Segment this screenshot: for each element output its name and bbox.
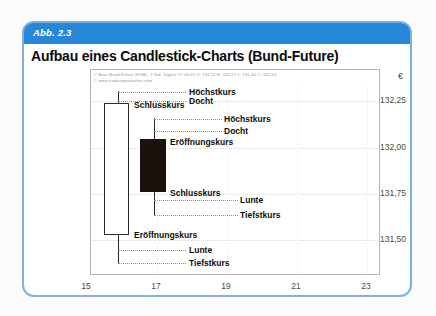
x-tick-23: 23 <box>361 281 370 291</box>
black-candle-upper-wick <box>154 118 155 139</box>
leader-white-high <box>118 92 186 93</box>
v-gridline-19 <box>227 84 228 273</box>
label-black-high: Höchstkurs <box>224 114 271 124</box>
y-tick-131-75: 131,75 <box>380 188 406 198</box>
label-black-upper-wick: Docht <box>224 126 248 136</box>
white-candle-body <box>104 103 129 235</box>
label-black-open: Eröffnungskurs <box>170 137 233 147</box>
label-black-lower-wick: Lunte <box>240 195 263 205</box>
leader-black-lower-wick <box>154 200 238 201</box>
leader-black-upper-wick <box>154 131 222 132</box>
black-candle-lower-wick <box>154 192 155 216</box>
x-tick-19: 19 <box>221 281 230 291</box>
y-tick-132-00: 132,00 <box>380 142 406 152</box>
label-white-open: Eröffnungskurs <box>134 230 197 240</box>
x-tick-15: 15 <box>81 281 90 291</box>
leader-white-low <box>118 263 186 264</box>
label-white-lower-wick: Lunte <box>189 245 212 255</box>
label-white-low: Tiefstkurs <box>189 258 229 268</box>
label-black-close: Schlusskurs <box>170 188 221 198</box>
h-gridline-131-75 <box>92 194 378 195</box>
label-white-upper-wick: Docht <box>189 96 213 106</box>
v-gridline-23 <box>367 84 368 273</box>
chart-plot-area: © Euro-Bund-Future (FGBL, 1 Std. Tages) … <box>90 69 380 275</box>
label-white-close: Schlusskurs <box>134 100 185 110</box>
leader-black-low <box>154 215 238 216</box>
y-tick-131-50: 131,50 <box>380 234 406 244</box>
x-tick-17: 17 <box>151 281 160 291</box>
chart-source-line-2: © www.tradesignalonline.com <box>94 78 152 83</box>
figure-page: Abb. 2.3 Aufbau eines Candlestick-Charts… <box>0 0 436 316</box>
figure-header-bar: Abb. 2.3 <box>24 23 410 44</box>
figure-title: Aufbau eines Candlestick-Charts (Bund-Fu… <box>31 48 339 64</box>
x-tick-21: 21 <box>291 281 300 291</box>
y-tick-132-25: 132,25 <box>380 95 406 105</box>
currency-symbol: € <box>398 71 406 81</box>
y-axis: € 132,25 132,00 131,75 131,50 <box>378 0 408 316</box>
figure-number-label: Abb. 2.3 <box>33 27 72 38</box>
leader-black-high <box>154 119 222 120</box>
black-candle-body <box>140 139 166 192</box>
v-gridline-21 <box>297 84 298 273</box>
leader-white-lower-wick <box>118 250 186 251</box>
h-gridline-131-50 <box>92 240 378 241</box>
h-gridline-132-00 <box>92 148 378 149</box>
label-black-low: Tiefstkurs <box>240 210 280 220</box>
chart-source-line-1: © Euro-Bund-Future (FGBL, 1 Std. Tages) … <box>94 72 276 77</box>
